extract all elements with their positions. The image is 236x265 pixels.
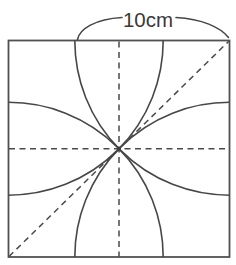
figure-container: 10cm [0,0,236,265]
page: { "figure": { "side_label": "10cm", "sha… [0,0,236,265]
corner-arc-top-left [9,41,164,196]
geometry-diagram: 10cm [0,0,236,265]
center-point [117,147,121,151]
dimension-brace-left [78,18,123,40]
corner-arc-bottom-right [75,102,230,257]
dimension-brace-right [176,18,229,38]
side-length-label: 10cm [123,8,173,31]
